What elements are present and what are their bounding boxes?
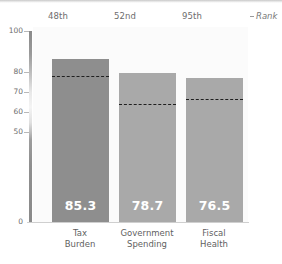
category-label-fiscal-health-line2: Health [172, 239, 256, 250]
bar-value-tax-burden: 85.3 [65, 199, 97, 212]
x-axis-baseline [27, 222, 249, 223]
y-tick-label-70: 70 [13, 88, 23, 96]
bar-value-fiscal-health: 76.5 [199, 199, 231, 212]
y-tick-label-50: 50 [13, 128, 23, 136]
category-label-fiscal-health: Fiscal Health [172, 228, 256, 249]
rank-label-fiscal-health: 95th [157, 9, 227, 23]
rank-legend: Rank [250, 9, 277, 23]
reference-line-tax-burden [52, 76, 109, 77]
y-tick-label-100: 100 [9, 27, 23, 35]
bar-chart: 48th 52nd 95th Rank 100 80 70 60 50 0 85… [0, 0, 282, 264]
reference-line-government-spending [119, 104, 176, 105]
rank-label-tax-burden: 48th [23, 9, 93, 23]
rank-legend-tick-icon [250, 16, 254, 17]
bar-tax-burden[interactable]: 85.3 [52, 59, 109, 222]
y-axis-gradient-spine [29, 31, 32, 222]
bar-value-government-spending: 78.7 [132, 199, 164, 212]
y-tick-label-60: 60 [13, 108, 23, 116]
rank-header-row: 48th 52nd 95th Rank [0, 9, 282, 25]
figure-top-rule [0, 0, 282, 3]
y-tick-label-0: 0 [18, 218, 23, 226]
category-label-fiscal-health-line1: Fiscal [172, 228, 256, 239]
bar-government-spending[interactable]: 78.7 [119, 73, 176, 222]
rank-legend-text: Rank [256, 11, 277, 21]
y-tick-label-80: 80 [13, 68, 23, 76]
rank-label-government-spending: 52nd [90, 9, 160, 23]
reference-line-fiscal-health [186, 99, 243, 100]
x-axis-category-row: Tax Burden Government Spending Fiscal He… [0, 228, 282, 258]
